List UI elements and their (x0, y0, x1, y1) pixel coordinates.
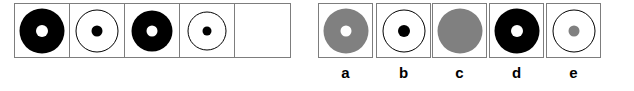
option-label-a: a (318, 65, 373, 81)
option-group-d[interactable]: d (489, 3, 544, 81)
option-box-b[interactable] (376, 3, 431, 58)
outer-circle (437, 8, 482, 53)
option-label-b: b (376, 65, 431, 81)
sequence-cell-3 (125, 4, 180, 57)
option-group-b[interactable]: b (376, 3, 431, 81)
inner-dot (340, 25, 351, 36)
sequence-cell-1 (15, 4, 70, 57)
inner-dot (511, 25, 523, 37)
inner-dot (203, 26, 212, 35)
inner-dot (398, 25, 410, 37)
option-box-d[interactable] (489, 3, 544, 58)
option-group-c[interactable]: c (432, 3, 487, 81)
option-label-e: e (546, 65, 601, 81)
answer-options-row: a b c d e (318, 3, 630, 91)
sequence-cell-2 (70, 4, 125, 57)
inner-dot (36, 25, 48, 37)
sequence-strip (14, 3, 291, 58)
option-box-a[interactable] (318, 3, 373, 58)
sequence-cell-4 (180, 4, 235, 57)
visual-analogy-puzzle: a b c d e (0, 0, 634, 91)
option-group-e[interactable]: e (546, 3, 601, 81)
option-group-a[interactable]: a (318, 3, 373, 81)
option-box-c[interactable] (432, 3, 487, 58)
option-label-c: c (432, 65, 487, 81)
inner-dot (147, 25, 158, 36)
inner-dot (568, 25, 579, 36)
sequence-answer-slot (235, 4, 290, 57)
inner-dot (92, 25, 103, 36)
option-label-d: d (489, 65, 544, 81)
option-box-e[interactable] (546, 3, 601, 58)
